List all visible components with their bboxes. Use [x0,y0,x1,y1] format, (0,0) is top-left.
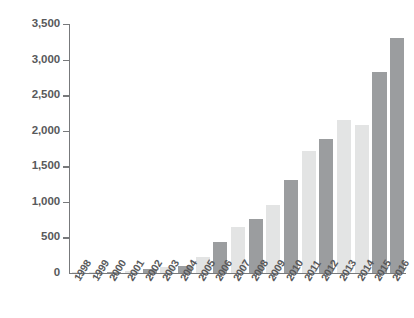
y-axis-tick-mark [63,166,70,167]
y-axis-tick-label: 1,500 [2,160,60,172]
bar [337,120,351,273]
y-axis-tick-label: 1,000 [2,196,60,208]
bar-chart: 05001,0001,5002,0002,5003,0003,500 19981… [0,0,414,318]
y-axis-labels: 05001,0001,5002,0002,5003,0003,500 [0,0,60,318]
y-axis-tick-label: 3,000 [2,54,60,66]
bar [390,38,404,273]
y-axis-tick-mark [63,60,70,61]
bar [355,125,369,273]
bar [302,151,316,273]
y-axis-tick-label: 2,000 [2,125,60,137]
y-axis-tick-label: 3,500 [2,18,60,30]
y-axis-tick-label: 500 [2,231,60,243]
bars-container [70,24,406,273]
y-axis-tick-label: 2,500 [2,89,60,101]
y-axis-tick-label: 0 [2,267,60,279]
y-axis-tick-mark [63,237,70,238]
bar [319,139,333,273]
y-axis-tick-mark [63,131,70,132]
y-axis-tick-mark [63,24,70,25]
y-axis-tick-mark [63,95,70,96]
y-axis-tick-mark [63,202,70,203]
x-axis-labels: 1998199920002001200220032004200520062007… [70,277,414,318]
bar [372,72,386,273]
